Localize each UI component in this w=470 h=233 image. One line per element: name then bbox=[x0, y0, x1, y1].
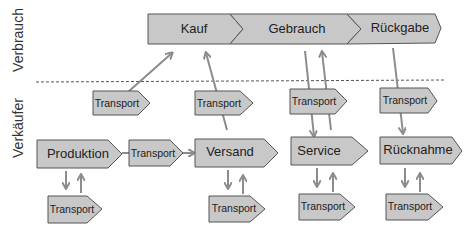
transport-upper-service: Transport bbox=[290, 89, 347, 114]
transport-upper-produktion: Transport bbox=[93, 91, 150, 115]
process-diagram: Verbrauch Verkäufer Kauf Gebrauch Rückga… bbox=[0, 0, 470, 233]
lane-label-verkaeufer: Verkäufer bbox=[10, 98, 26, 158]
stage-produktion: Produktion bbox=[37, 140, 122, 168]
svg-text:Transport: Transport bbox=[301, 200, 346, 212]
flow-arrows bbox=[66, 48, 420, 194]
svg-text:Transport: Transport bbox=[95, 97, 140, 109]
transport-between-produktion-versand: Transport bbox=[129, 140, 183, 166]
lane-divider bbox=[36, 80, 445, 82]
svg-text:Verkäufer: Verkäufer bbox=[10, 98, 26, 158]
svg-text:Transport: Transport bbox=[50, 203, 95, 215]
svg-text:Versand: Versand bbox=[206, 144, 254, 159]
svg-text:Transport: Transport bbox=[388, 200, 433, 212]
lane-label-verbrauch: Verbrauch bbox=[10, 8, 26, 72]
transport-lower-service: Transport bbox=[299, 194, 355, 220]
transport-lower-versand: Transport bbox=[209, 196, 265, 222]
rueckgabe-label: Rückgabe bbox=[371, 20, 430, 35]
stage-versand: Versand bbox=[195, 139, 278, 167]
kauf-label: Kauf bbox=[181, 21, 208, 36]
svg-text:Transport: Transport bbox=[383, 94, 428, 106]
consumer-chain: Kauf Gebrauch Rückgabe bbox=[148, 14, 441, 44]
stage-ruecknahme: Rücknahme bbox=[380, 137, 462, 164]
svg-text:Transport: Transport bbox=[197, 97, 242, 109]
stage-service: Service bbox=[291, 137, 368, 165]
transport-lower-produktion: Transport bbox=[48, 196, 102, 223]
svg-text:Produktion: Produktion bbox=[47, 146, 109, 161]
svg-text:Transport: Transport bbox=[131, 147, 176, 159]
transport-upper-versand: Transport bbox=[195, 91, 253, 115]
svg-text:Service: Service bbox=[297, 143, 340, 158]
transport-upper-ruecknahme: Transport bbox=[380, 88, 437, 113]
svg-text:Rücknahme: Rücknahme bbox=[383, 142, 452, 157]
svg-text:Transport: Transport bbox=[292, 95, 337, 107]
svg-text:Verbrauch: Verbrauch bbox=[10, 8, 26, 72]
gebrauch-label: Gebrauch bbox=[268, 21, 325, 36]
svg-text:Transport: Transport bbox=[212, 202, 257, 214]
transport-lower-ruecknahme: Transport bbox=[386, 194, 443, 220]
